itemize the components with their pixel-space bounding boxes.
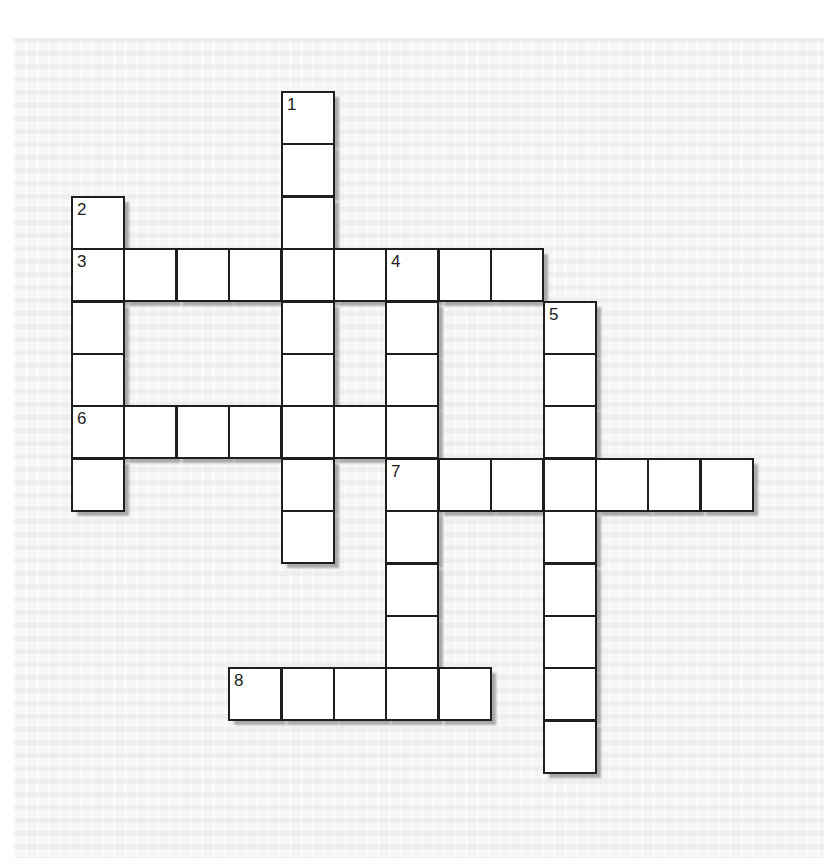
crossword-cell[interactable]: [333, 405, 387, 459]
crossword-cell[interactable]: 7: [385, 458, 439, 512]
crossword-cell[interactable]: [281, 667, 335, 721]
clue-number: 3: [77, 253, 86, 270]
crossword-cell[interactable]: [385, 405, 439, 459]
crossword-cell[interactable]: [595, 458, 649, 512]
crossword-cell[interactable]: 5: [543, 301, 597, 355]
crossword-cell[interactable]: 4: [385, 248, 439, 302]
crossword-cell[interactable]: [543, 615, 597, 669]
crossword-cell[interactable]: [176, 248, 230, 302]
clue-number: 5: [549, 306, 558, 323]
crossword-cell[interactable]: 1: [281, 91, 335, 145]
crossword-cell[interactable]: [281, 196, 335, 250]
crossword-cell[interactable]: [281, 353, 335, 407]
clue-number: 4: [391, 253, 400, 270]
crossword-grid: 12364758: [0, 0, 829, 866]
crossword-cell[interactable]: [281, 510, 335, 564]
crossword-cell[interactable]: [438, 667, 492, 721]
crossword-cell[interactable]: [647, 458, 701, 512]
crossword-cell[interactable]: [333, 248, 387, 302]
crossword-cell[interactable]: [543, 720, 597, 774]
crossword-cell[interactable]: [281, 301, 335, 355]
crossword-cell[interactable]: [71, 353, 125, 407]
crossword-cell[interactable]: [543, 458, 597, 512]
clue-number: 8: [234, 672, 243, 689]
crossword-cell[interactable]: [543, 353, 597, 407]
crossword-cell[interactable]: [385, 510, 439, 564]
crossword-cell[interactable]: [333, 667, 387, 721]
crossword-cell[interactable]: [385, 563, 439, 617]
clue-number: 2: [77, 201, 86, 218]
crossword-cell[interactable]: [700, 458, 754, 512]
crossword-cell[interactable]: [71, 301, 125, 355]
clue-number: 1: [287, 96, 296, 113]
crossword-cell[interactable]: [385, 615, 439, 669]
crossword-cell[interactable]: [176, 405, 230, 459]
clue-number: 7: [391, 463, 400, 480]
crossword-cell[interactable]: [228, 248, 282, 302]
crossword-cell[interactable]: [71, 458, 125, 512]
crossword-cell[interactable]: 3: [71, 248, 125, 302]
crossword-cell[interactable]: 2: [71, 196, 125, 250]
crossword-cell[interactable]: [438, 248, 492, 302]
crossword-cell[interactable]: 6: [71, 405, 125, 459]
crossword-cell[interactable]: [543, 563, 597, 617]
crossword-cell[interactable]: [438, 458, 492, 512]
clue-number: 6: [77, 410, 86, 427]
crossword-cell[interactable]: [123, 405, 177, 459]
crossword-cell[interactable]: [543, 510, 597, 564]
crossword-cell[interactable]: [228, 405, 282, 459]
crossword-cell[interactable]: [385, 667, 439, 721]
crossword-cell[interactable]: [385, 301, 439, 355]
crossword-cell[interactable]: [281, 143, 335, 197]
crossword-cell[interactable]: [385, 353, 439, 407]
crossword-cell[interactable]: [123, 248, 177, 302]
crossword-cell[interactable]: [490, 458, 544, 512]
crossword-cell[interactable]: [281, 458, 335, 512]
crossword-cell[interactable]: [543, 667, 597, 721]
crossword-cell[interactable]: [281, 405, 335, 459]
crossword-cell[interactable]: [281, 248, 335, 302]
crossword-cell[interactable]: 8: [228, 667, 282, 721]
crossword-cell[interactable]: [543, 405, 597, 459]
crossword-cell[interactable]: [490, 248, 544, 302]
